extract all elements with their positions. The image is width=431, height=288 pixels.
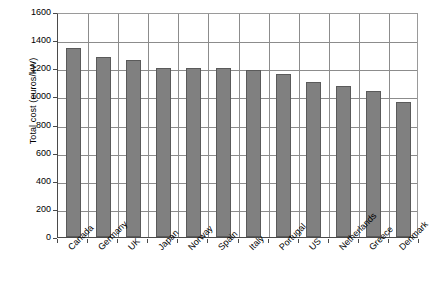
x-axis-tick — [57, 239, 58, 243]
bar — [336, 86, 351, 237]
y-axis-tick-label: 0 — [15, 233, 51, 242]
x-axis-tick — [117, 239, 118, 243]
y-axis-tick — [53, 182, 57, 183]
x-axis-tick — [177, 239, 178, 243]
y-axis-tick-label: 1600 — [15, 8, 51, 17]
y-axis-tick-label: 400 — [15, 177, 51, 186]
bar — [186, 68, 201, 237]
y-axis-tick-label: 1000 — [15, 92, 51, 101]
bar — [396, 102, 411, 237]
y-axis-tick — [53, 97, 57, 98]
y-axis-tick-label: 1200 — [15, 64, 51, 73]
y-axis-tick — [53, 210, 57, 211]
x-axis-tick — [147, 239, 148, 243]
x-axis-tick — [328, 239, 329, 243]
y-axis-tick-label: 600 — [15, 149, 51, 158]
x-axis-tick — [268, 239, 269, 243]
y-axis-tick — [53, 69, 57, 70]
y-axis-tick — [53, 126, 57, 127]
x-axis-tick — [87, 239, 88, 243]
bar — [156, 68, 171, 237]
bar — [246, 70, 261, 237]
y-axis-tick — [53, 13, 57, 14]
y-axis-tick-label: 1400 — [15, 36, 51, 45]
x-axis-tick — [388, 239, 389, 243]
bar — [66, 48, 81, 237]
y-axis-tick — [53, 154, 57, 155]
x-axis-tick — [358, 239, 359, 243]
y-axis-tick-label: 200 — [15, 205, 51, 214]
bar — [126, 60, 141, 237]
x-axis-tick-label: US — [307, 236, 323, 252]
bar-series — [58, 14, 417, 237]
bar — [306, 82, 321, 237]
x-axis-tick — [207, 239, 208, 243]
plot-area — [57, 13, 418, 238]
bar — [276, 74, 291, 237]
x-axis-tick — [298, 239, 299, 243]
y-axis-tick — [53, 41, 57, 42]
x-axis-tick — [238, 239, 239, 243]
bar — [96, 57, 111, 237]
x-axis-tick-label: UK — [126, 236, 142, 252]
x-axis-tick — [418, 239, 419, 243]
y-axis-tick-label: 800 — [15, 121, 51, 130]
bar-chart: Total cost (euros/kW) CanadaGermanyUKJap… — [0, 0, 431, 288]
bar — [216, 68, 231, 237]
